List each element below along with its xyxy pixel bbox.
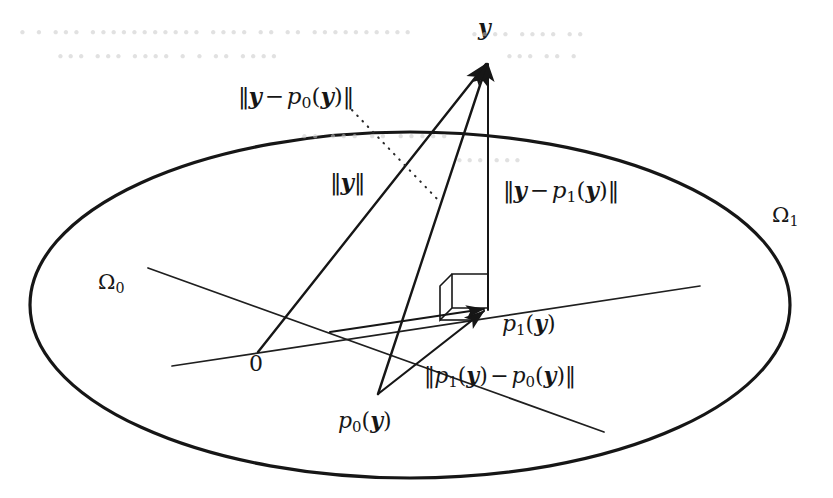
- y-var-inner: y: [585, 176, 598, 203]
- subscript-one: 1: [566, 187, 576, 206]
- omega-glyph: Ω: [98, 270, 115, 294]
- y-var: y: [370, 407, 383, 433]
- origin-glyph: 0: [249, 351, 263, 376]
- omega-glyph: Ω: [772, 203, 789, 227]
- y-var: y: [249, 82, 262, 109]
- bar-open: ‖: [238, 83, 249, 109]
- diagram-svg: [0, 0, 833, 498]
- showthrough-text-line-5: •• ••• •• •••••: [300, 128, 450, 146]
- subscript-zero: 0: [526, 373, 536, 391]
- paren-close-0: ): [556, 363, 565, 388]
- p-fn: p: [287, 83, 302, 109]
- paren-open: (: [362, 408, 371, 433]
- p-fn-0: p: [511, 363, 525, 388]
- figure-canvas: y ‖y−p0(y)‖ ‖y‖ ‖y−p1(y)‖ Ω1 Ω0 p1(y) ‖p…: [0, 0, 833, 498]
- bar-close: ‖: [343, 83, 354, 109]
- y-var-0: y: [544, 362, 557, 388]
- paren-close: ): [547, 311, 556, 336]
- p-fn: p: [502, 311, 516, 336]
- subscript-zero: 0: [301, 93, 311, 112]
- label-norm-y: ‖y‖: [330, 170, 365, 194]
- y-var: y: [514, 176, 527, 203]
- minus-op: −: [262, 83, 287, 109]
- label-norm-y-minus-p0: ‖y−p0(y)‖: [238, 84, 353, 111]
- paren-open: (: [526, 311, 535, 336]
- label-p0-of-y: p0(y): [338, 409, 392, 435]
- subscript-one: 1: [448, 373, 458, 391]
- p-fn: p: [338, 408, 352, 433]
- p-fn-1: p: [434, 363, 448, 388]
- paren-close: ): [334, 83, 343, 109]
- bar-open: ‖: [330, 169, 341, 195]
- bar-open: ‖: [503, 177, 514, 203]
- y-var: y: [534, 310, 547, 336]
- y-var: y: [341, 168, 354, 195]
- minus-op: −: [488, 363, 512, 388]
- bar-close: ‖: [608, 177, 619, 203]
- leader-line-dotted: [352, 110, 440, 202]
- minus-op: −: [527, 177, 552, 203]
- ellipse-omega1: [30, 132, 790, 478]
- bar-close: ‖: [565, 363, 575, 388]
- label-omega-1: Ω1: [772, 205, 799, 228]
- showthrough-text-line-6: ••• •••: [455, 152, 523, 170]
- showthrough-text-line-2: ••• ••• •••• • • •• ••••: [56, 48, 280, 66]
- y-var-1: y: [466, 362, 479, 388]
- vector-y-minus-p0: [378, 64, 487, 394]
- paren-open-0: (: [535, 363, 544, 388]
- paren-close: ): [383, 408, 392, 433]
- bar-open: ‖: [424, 363, 434, 388]
- subscript-one: 1: [516, 321, 526, 339]
- paren-close: ): [599, 177, 608, 203]
- bar-close: ‖: [354, 169, 365, 195]
- showthrough-text-line-1: • • ••• ••••••••••• •••• •• •• •••••••••…: [18, 24, 414, 42]
- right-angle-marker: [452, 274, 488, 308]
- label-norm-y-minus-p1: ‖y−p1(y)‖: [503, 178, 618, 205]
- p-fn: p: [552, 177, 567, 203]
- label-p1-of-y: p1(y): [502, 312, 556, 338]
- label-norm-p1-minus-p0: ‖p1(y)−p0(y)‖: [424, 364, 575, 390]
- label-origin: 0: [249, 353, 263, 375]
- subscript-one: 1: [789, 213, 798, 229]
- y-var-inner: y: [320, 82, 333, 109]
- showthrough-text-line-3: •••• •••• ••: [470, 26, 586, 44]
- showthrough-text-line-4: ••• •• •: [505, 48, 580, 66]
- subscript-zero: 0: [352, 418, 362, 436]
- label-omega-0: Ω0: [98, 272, 125, 295]
- subscript-zero: 0: [115, 280, 124, 296]
- paren-close-1: ): [479, 363, 488, 388]
